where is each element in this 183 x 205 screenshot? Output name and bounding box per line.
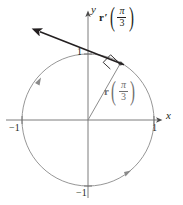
figure-canvas: x y −1 1 1 −1 r ′ ( π 3 ) r ( π 3 ) <box>0 0 183 205</box>
position-vector-label: r ( π 3 ) <box>104 80 137 103</box>
x-axis-label: x <box>166 110 171 121</box>
velocity-label-paren-left: ( <box>110 7 115 28</box>
velocity-vector-label: r ′ ( π 3 ) <box>99 6 136 29</box>
tick-label-y-positive-one: 1 <box>77 47 82 57</box>
position-label-numerator: π <box>120 80 127 90</box>
circle-direction-arrow-lower-right <box>124 171 131 177</box>
circle-direction-arrow-upper-left <box>35 78 41 86</box>
velocity-label-paren-right: ) <box>129 7 134 28</box>
velocity-label-denominator: 3 <box>118 18 125 28</box>
velocity-vector-prime: ′ <box>104 11 107 23</box>
position-label-fraction: π 3 <box>118 80 128 103</box>
velocity-label-fraction: π 3 <box>117 6 127 29</box>
position-vector-symbol: r <box>104 85 109 97</box>
y-axis-label: y <box>91 4 96 15</box>
tick-label-y-negative-one: −1 <box>76 188 87 198</box>
unit-circle-diagram <box>0 0 183 205</box>
velocity-vector-symbol: r <box>99 11 104 23</box>
tick-label-x-negative-one: −1 <box>9 123 20 133</box>
velocity-label-numerator: π <box>118 6 125 16</box>
tick-label-x-positive-one: 1 <box>152 123 157 133</box>
position-label-denominator: 3 <box>120 92 127 102</box>
velocity-vector-r-prime <box>40 32 124 65</box>
position-label-paren-right: ) <box>130 81 135 102</box>
position-label-paren-left: ( <box>111 81 116 102</box>
